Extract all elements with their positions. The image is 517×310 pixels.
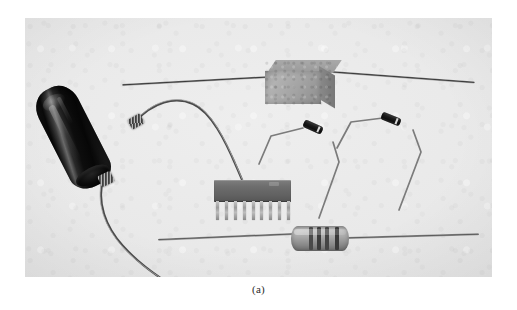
diode-right-cathode-band [395,118,399,124]
resistor-band-2 [317,227,321,250]
figure-root: (a) [0,0,517,310]
figure-caption: (a) [0,283,517,295]
wirewound-lead-right [330,71,475,83]
sip-pin-1 [216,201,219,220]
wirewound-lead-left [122,76,272,86]
component-photograph [25,18,492,277]
sip-pin-7 [269,201,272,220]
sip-pin-row [216,201,290,221]
resistor-band-4 [335,227,339,250]
resistor-band-3 [325,227,329,250]
sip-pin-2 [225,201,228,220]
sip-pin-6 [260,201,263,220]
sip-pin-5 [252,201,255,220]
sip-pin-9 [287,201,290,220]
sip-pin-8 [278,201,281,220]
sip-package-body [214,180,291,202]
sip-pin-4 [243,201,246,220]
resistor-band-1 [309,227,313,250]
diode-right-leads [335,92,465,212]
sip-package [214,180,291,222]
sip-pin-3 [234,201,237,220]
carbon-resistor-body [291,226,349,251]
sip-marking [269,182,279,186]
diode-left-cathode-band [316,126,320,132]
resistor-lead-right [346,233,479,238]
